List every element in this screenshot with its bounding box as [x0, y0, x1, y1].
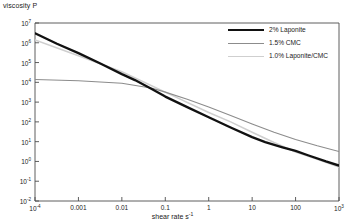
legend-swatch-0	[228, 29, 264, 31]
x-tick-base-6: 100	[290, 204, 301, 211]
y-tick-exponent-1: 6	[28, 39, 31, 44]
y-tick-base-8: 10	[20, 178, 27, 185]
y-tick-exponent-0: 7	[28, 19, 31, 24]
legend-swatch-1	[228, 43, 264, 44]
x-tick-label-7: 103	[334, 204, 344, 212]
x-tick-base-4: 1	[207, 204, 211, 211]
legend-item-2[interactable]: 1.0% Laponite/CMC	[228, 50, 328, 62]
y-tick-exponent-6: 1	[28, 138, 31, 143]
x-tick-label-4: 1	[207, 204, 211, 211]
legend-item-0[interactable]: 2% Laponite	[228, 24, 306, 36]
y-tick-label-1: 106	[6, 39, 31, 47]
y-tick-label-5: 102	[6, 118, 31, 126]
y-tick-label-2: 105	[6, 58, 31, 66]
x-tick-exponent-0: -4	[37, 204, 41, 209]
x-tick-base-3: 0.1	[161, 204, 170, 211]
y-tick-exponent-3: 4	[28, 78, 31, 83]
y-tick-label-6: 101	[6, 138, 31, 146]
x-tick-label-1: 0.001	[70, 204, 86, 211]
x-tick-label-5: 10	[249, 204, 256, 211]
legend-label-2: 1.0% Laponite/CMC	[269, 53, 328, 60]
x-tick-label-3: 0.1	[161, 204, 170, 211]
x-tick-label-0: 10-4	[29, 204, 40, 212]
x-tick-base-2: 0.01	[116, 204, 129, 211]
y-tick-label-4: 103	[6, 98, 31, 106]
y-tick-label-3: 104	[6, 78, 31, 86]
legend-label-1: 1.5% CMC	[269, 40, 301, 47]
y-tick-label-7: 100	[6, 157, 31, 165]
x-tick-base-1: 0.001	[70, 204, 86, 211]
x-tick-base-5: 10	[249, 204, 256, 211]
y-tick-label-8: 10-1	[6, 177, 31, 185]
y-tick-exponent-2: 5	[28, 58, 31, 63]
y-tick-exponent-7: 0	[28, 157, 31, 162]
y-tick-label-0: 107	[6, 19, 31, 27]
y-tick-exponent-4: 3	[28, 98, 31, 103]
series-line-1	[35, 79, 339, 151]
y-tick-label-9: 10-2	[6, 197, 31, 205]
y-tick-exponent-9: -2	[27, 197, 31, 202]
legend-label-0: 2% Laponite	[269, 27, 306, 34]
y-tick-exponent-5: 2	[28, 118, 31, 123]
legend: 2% Laponite 1.5% CMC 1.0% Laponite/CMC	[228, 24, 340, 66]
y-tick-base-9: 10	[20, 198, 27, 205]
viscosity-shear-rate-chart: viscosity P shear rate s-1 1071061051041…	[0, 0, 345, 224]
x-tick-label-2: 0.01	[116, 204, 129, 211]
legend-item-1[interactable]: 1.5% CMC	[228, 37, 301, 49]
x-tick-label-6: 100	[290, 204, 301, 211]
y-tick-exponent-8: -1	[27, 177, 31, 182]
legend-swatch-2	[228, 56, 264, 57]
x-tick-exponent-7: 3	[341, 204, 344, 209]
